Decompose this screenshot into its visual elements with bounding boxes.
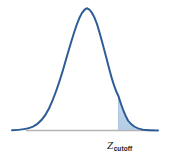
cutoff-label: Zcutoff bbox=[107, 136, 132, 152]
normal-curve-chart bbox=[0, 0, 173, 158]
cutoff-subscript: cutoff bbox=[114, 145, 133, 152]
cutoff-variable-symbol: Z bbox=[107, 139, 113, 151]
normal-curve-figure: Zcutoff bbox=[0, 0, 173, 158]
bell-curve-path bbox=[12, 8, 158, 130]
